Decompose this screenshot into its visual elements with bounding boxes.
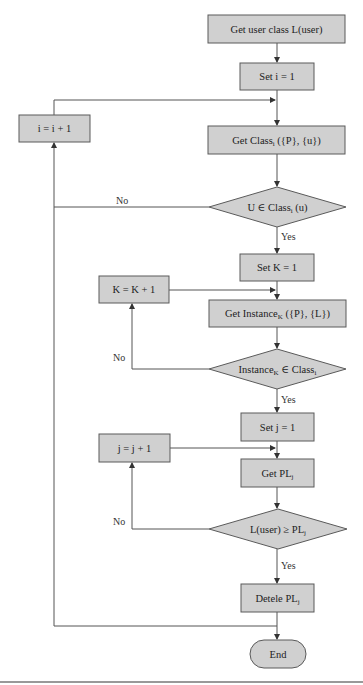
node-set-j: Set j = 1: [241, 413, 314, 441]
node-get-instance: Get InstanceK ({P}, {L}): [209, 300, 346, 327]
flowchart: No Yes No Yes No Yes Get user class L(us…: [0, 0, 363, 685]
node-text: K = K + 1: [113, 284, 156, 295]
edge-decision3-no: [132, 463, 209, 529]
decision-level-check: L(user) ≥ PLj: [209, 509, 347, 549]
node-text: i = i + 1: [38, 123, 71, 134]
label-no-1: No: [116, 195, 128, 206]
decision-instance-in-class: InstanceK ∈ Classi: [209, 349, 346, 389]
node-increment-j: j = j + 1: [99, 434, 170, 462]
node-get-user-class: Get user class L(user): [208, 15, 345, 43]
node-increment-i: i = i + 1: [19, 115, 90, 142]
node-text: Set i = 1: [259, 71, 294, 82]
edge-inci-to-getclass: [54, 100, 275, 115]
node-set-i: Set i = 1: [240, 63, 314, 90]
node-increment-k: K = K + 1: [99, 276, 169, 303]
node-delete-pl: Detele PLj: [241, 584, 314, 612]
node-get-pl: Get PLj: [241, 459, 314, 487]
node-set-k: Set K = 1: [240, 254, 314, 281]
node-text: Get user class L(user): [231, 24, 323, 36]
node-text: j = j + 1: [117, 443, 151, 454]
node-text: Set K = 1: [257, 262, 297, 273]
node-end: End: [250, 640, 306, 668]
label-yes-1: Yes: [281, 231, 296, 242]
node-text: Set j = 1: [260, 422, 295, 433]
label-yes-3: Yes: [281, 560, 296, 571]
label-yes-2: Yes: [281, 394, 296, 405]
label-no-2: No: [113, 352, 125, 363]
node-text: End: [270, 649, 288, 660]
decision-u-in-class: U ∈ Classi (u): [209, 187, 346, 227]
node-get-class: Get Classi ({P}, {u}): [208, 126, 345, 154]
label-no-3: No: [113, 516, 125, 527]
edge-decision2-no: [132, 304, 209, 369]
